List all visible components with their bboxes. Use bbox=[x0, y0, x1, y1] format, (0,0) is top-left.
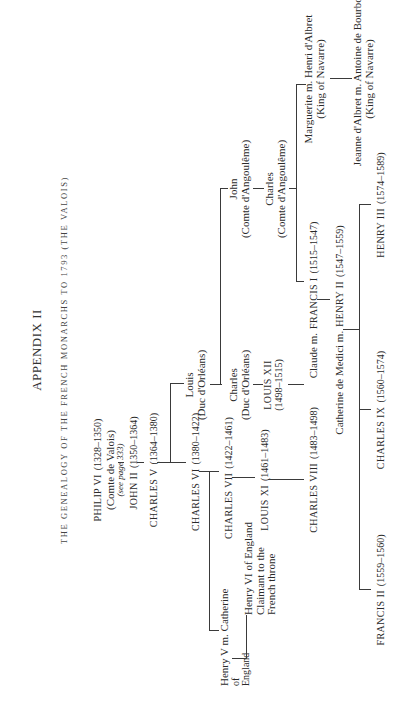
node-charles-viii: CHARLES VIII (1483–1498) bbox=[304, 407, 321, 533]
connector-line bbox=[359, 409, 371, 410]
node-louis-xii: LOUIS XII (1498–1515) bbox=[263, 359, 284, 411]
node-francis-ii: FRANCIS II (1559–1560) bbox=[371, 534, 388, 645]
connector-line bbox=[209, 472, 210, 631]
connector-line bbox=[289, 188, 296, 189]
node-charles-ix: CHARLES IX (1560–1574) bbox=[371, 351, 388, 469]
node-catherine-henry-ii: Catherine de Medici m. HENRY II (1547–15… bbox=[330, 225, 347, 434]
page-subtitle: THE GENEALOGY OF THE FRENCH MONARCHS TO … bbox=[60, 176, 69, 544]
node-charles-angouleme: Charles (Comte d'Angoulême) bbox=[264, 140, 287, 238]
node-henry-vi: Henry VI of England Claimant to the Fren… bbox=[243, 522, 278, 615]
connector-line bbox=[199, 471, 209, 472]
node-philip-vi: PHILIP VI (1328–1350) (Comte de Valois) … bbox=[88, 419, 126, 522]
connector-line bbox=[232, 658, 246, 659]
connector-line bbox=[232, 477, 255, 478]
node-charles-vi: CHARLES VI (1380–1422) bbox=[186, 413, 203, 531]
connector-line bbox=[246, 615, 247, 659]
node-jeanne: Jeanne d'Albret m. Antoine de Bourbon (K… bbox=[352, 0, 375, 166]
node-john-angouleme: John (Comte d'Angoulême) bbox=[228, 140, 251, 238]
node-marguerite: Marguerite m. Henri d'Albret (King of Na… bbox=[303, 15, 326, 144]
connector-line bbox=[137, 462, 144, 463]
page-title: APPENDIX II bbox=[30, 309, 44, 391]
node-louis-orleans: Louis (Duc d'Orléans) bbox=[184, 350, 207, 420]
connector-line bbox=[157, 462, 171, 463]
node-claude-francis-i: Claude m. FRANCIS I (1515–1547) bbox=[304, 222, 321, 379]
node-louis-xi: LOUIS XI (1461–1483) bbox=[255, 429, 272, 530]
connector-line bbox=[170, 462, 186, 463]
connector-line bbox=[288, 384, 304, 385]
node-charles-vii: CHARLES VII (1422–1461) bbox=[219, 417, 236, 539]
node-john-ii: JOHN II (1350–1364) bbox=[124, 416, 141, 509]
node-charles-v: CHARLES V (1364–1380) bbox=[144, 413, 161, 527]
connector-line bbox=[268, 479, 304, 480]
connector-line bbox=[317, 299, 330, 300]
connector-line bbox=[170, 384, 171, 463]
connector-line bbox=[170, 383, 184, 384]
node-charles-orleans: Charles (Duc d'Orléans) bbox=[228, 350, 251, 420]
connector-line bbox=[296, 281, 304, 282]
genealogy-page: APPENDIX II THE GENEALOGY OF THE FRENCH … bbox=[0, 0, 409, 719]
connector-line bbox=[296, 85, 297, 282]
node-henry-iii: HENRY III (1574–1589) bbox=[371, 152, 388, 257]
connector-line bbox=[220, 189, 221, 385]
connector-line bbox=[359, 205, 360, 590]
connector-line bbox=[330, 78, 352, 79]
connector-line bbox=[343, 329, 359, 330]
